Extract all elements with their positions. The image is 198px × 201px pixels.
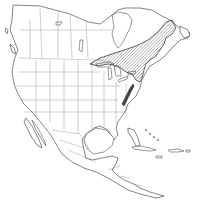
haida-gwaii xyxy=(5,28,8,34)
north-america-range-map xyxy=(0,0,198,201)
caribbean-islands xyxy=(132,129,190,158)
florida xyxy=(128,128,140,146)
lake-winnipeg xyxy=(79,40,83,52)
lake-michigan xyxy=(108,68,112,80)
vancouver-island xyxy=(10,44,16,54)
